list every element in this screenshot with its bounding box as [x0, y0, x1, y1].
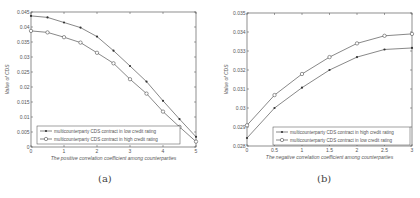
- y-tick-label: 0.031: [233, 86, 246, 92]
- x-tick-label: 1.5: [326, 147, 333, 153]
- data-point: [356, 56, 358, 58]
- data-point: [145, 92, 148, 95]
- y-axis-title: Value of CDS: [4, 64, 10, 95]
- caption-a: (a): [98, 173, 112, 184]
- x-tick-label: 0: [246, 147, 249, 153]
- y-tick-label: 0.04: [20, 24, 30, 30]
- data-point: [195, 136, 197, 138]
- y-tick-label: 0.025: [17, 69, 30, 75]
- y-tick-label: 0.033: [233, 48, 246, 54]
- plot-area: [247, 13, 412, 146]
- data-point: [328, 69, 330, 71]
- data-point: [246, 137, 248, 139]
- data-point: [46, 16, 48, 18]
- data-point: [300, 72, 303, 75]
- legend-label: multicounterparty CDS contract in high c…: [290, 130, 394, 135]
- y-tick-label: 0.029: [233, 124, 246, 130]
- y-tick-label: 0.035: [233, 10, 246, 16]
- data-point: [383, 34, 386, 37]
- x-tick-label: 4: [162, 148, 165, 154]
- y-tick-label: 0.034: [233, 29, 246, 35]
- data-point: [301, 87, 303, 89]
- data-point: [79, 41, 82, 44]
- y-tick-label: 0.045: [17, 9, 30, 15]
- data-point: [112, 50, 114, 52]
- chart-panel-b: 00.511.522.530.0280.0290.030.0310.0320.0…: [223, 10, 414, 160]
- figure: 01234500.0050.010.0150.020.0250.030.0350…: [0, 0, 420, 198]
- y-tick-label: 0.035: [17, 39, 30, 45]
- data-point: [46, 31, 49, 34]
- chart-panel-a: 01234500.0050.010.0150.020.0250.030.0350…: [4, 9, 198, 161]
- data-point: [96, 36, 98, 38]
- x-tick-label: 3: [129, 148, 132, 154]
- data-point: [411, 47, 413, 49]
- x-axis-title: The negative correlation coefficient amo…: [266, 154, 394, 160]
- x-tick-label: 2: [356, 147, 359, 153]
- caption-b: (b): [317, 173, 331, 184]
- y-tick-label: 0.015: [17, 99, 30, 105]
- data-point: [79, 27, 81, 29]
- data-point: [62, 36, 65, 39]
- y-tick-label: 0.03: [236, 105, 246, 111]
- x-tick-label: 0: [30, 148, 33, 154]
- y-tick-label: 0.02: [20, 84, 30, 90]
- data-point: [95, 51, 98, 54]
- data-point: [145, 81, 147, 83]
- data-point: [194, 140, 197, 143]
- data-point: [129, 65, 131, 67]
- data-point: [162, 100, 164, 102]
- legend-marker-filled: [45, 130, 47, 132]
- x-tick-label: 5: [195, 148, 198, 154]
- data-point: [112, 62, 115, 65]
- data-point: [273, 93, 276, 96]
- data-point: [410, 32, 413, 35]
- x-tick-label: 1: [301, 147, 304, 153]
- legend-marker-open: [44, 137, 47, 140]
- legend: multicounterparty CDS contract in low cr…: [37, 126, 180, 144]
- x-axis-title: The positive correlation coefficient amo…: [51, 155, 177, 161]
- x-tick-label: 3: [411, 147, 414, 153]
- y-tick-label: 0.01: [20, 114, 30, 120]
- data-point: [328, 55, 331, 58]
- y-tick-label: 0.032: [233, 67, 246, 73]
- legend-marker-filled: [281, 131, 283, 133]
- y-tick-label: 0.005: [17, 129, 30, 135]
- y-tick-label: 0: [27, 144, 30, 150]
- data-point: [245, 124, 248, 127]
- x-tick-label: 2.5: [381, 147, 388, 153]
- data-point: [63, 21, 65, 23]
- data-point: [273, 107, 275, 109]
- data-point: [383, 48, 385, 50]
- legend-marker-open: [280, 138, 283, 141]
- x-tick-label: 2: [96, 148, 99, 154]
- data-point: [161, 110, 164, 113]
- legend-label: multicounterparty CDS contract in high c…: [54, 137, 158, 142]
- legend: multicounterparty CDS contract in high c…: [273, 127, 410, 145]
- legend-label: multicounterparty CDS contract in low cr…: [54, 129, 157, 134]
- legend-label: multicounterparty CDS contract in low cr…: [290, 138, 393, 143]
- data-point: [30, 15, 32, 17]
- x-tick-label: 1: [63, 148, 66, 154]
- x-tick-label: 0.5: [271, 147, 278, 153]
- data-point: [178, 118, 180, 120]
- y-axis-title: Value of CDS: [223, 64, 229, 95]
- data-point: [29, 29, 32, 32]
- data-point: [128, 78, 131, 81]
- y-tick-label: 0.03: [20, 54, 30, 60]
- y-tick-label: 0.028: [233, 143, 246, 149]
- data-point: [355, 42, 358, 45]
